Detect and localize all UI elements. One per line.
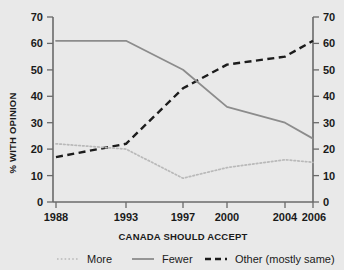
legend-label-other: Other (mostly same) [235,253,335,265]
chart-legend: More Fewer Other (mostly same) [57,253,335,265]
x-tick-label-1988: 1988 [44,211,68,223]
y-axis-title: % WITH OPINION [7,93,18,174]
y-axis-left-ticks [47,17,53,202]
y-tick-label-50: 50 [31,64,43,76]
y-right-tick-label-0: 0 [323,196,329,208]
x-tick-label-2004: 2004 [273,211,298,223]
chart-container: 70 60 50 40 30 20 10 0 70 60 50 40 30 20… [0,0,344,270]
y-tick-label-70: 70 [31,11,43,23]
y-right-tick-label-50: 50 [323,64,335,76]
y-tick-label-10: 10 [31,170,43,182]
legend-label-more: More [87,253,112,265]
x-tick-label-1993: 1993 [114,211,138,223]
series-line-other [56,41,313,157]
y-right-tick-label-30: 30 [323,117,335,129]
y-tick-label-20: 20 [31,143,43,155]
x-axis-title: CANADA SHOULD ACCEPT [119,231,248,242]
y-right-tick-label-20: 20 [323,143,335,155]
x-tick-label-2000: 2000 [215,211,239,223]
series-line-fewer [56,41,313,139]
x-axis-ticks [56,202,313,208]
y-right-tick-label-40: 40 [323,90,335,102]
legend-label-fewer: Fewer [162,253,193,265]
y-axis-right-ticks [313,17,319,202]
y-tick-label-60: 60 [31,37,43,49]
line-chart: 70 60 50 40 30 20 10 0 70 60 50 40 30 20… [0,0,344,270]
y-tick-label-40: 40 [31,90,43,102]
y-tick-label-0: 0 [37,196,43,208]
x-tick-label-2006: 2006 [302,211,326,223]
y-right-tick-label-10: 10 [323,170,335,182]
y-right-tick-label-70: 70 [323,11,335,23]
y-right-tick-label-60: 60 [323,37,335,49]
x-tick-label-1997: 1997 [171,211,195,223]
y-tick-label-30: 30 [31,117,43,129]
